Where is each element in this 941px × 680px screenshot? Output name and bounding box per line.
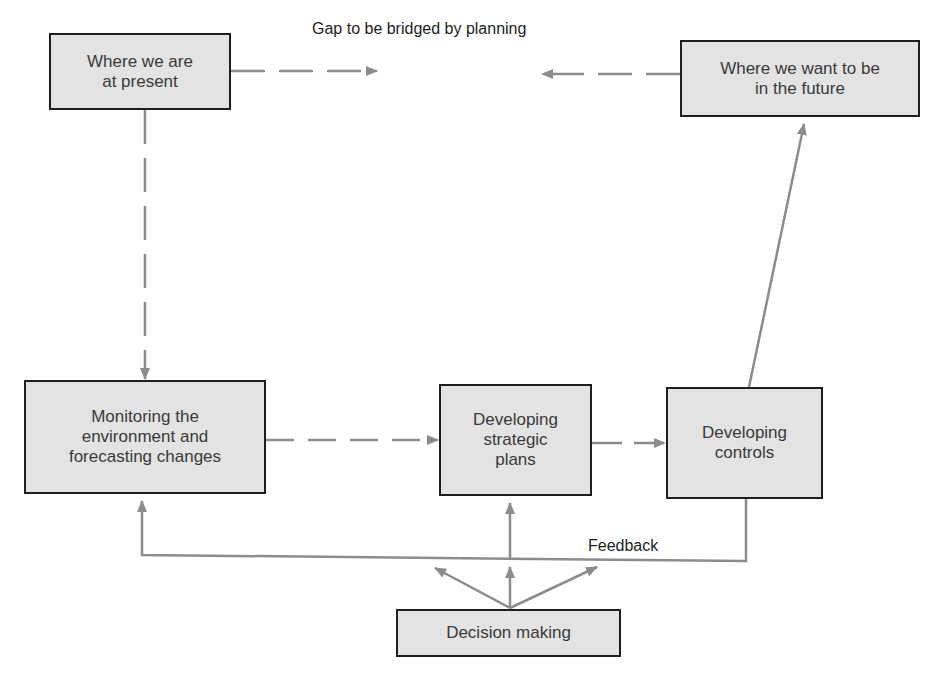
node-monitoring-environment: Monitoring the environment and forecasti…	[24, 380, 266, 494]
node-where-we-want-to-be: Where we want to be in the future	[680, 40, 920, 117]
feedback-label: Feedback	[588, 537, 658, 555]
arrow-decision-right	[510, 567, 597, 608]
node-developing-strategic-plans: Developing strategic plans	[439, 384, 592, 496]
arrow-decision-left	[435, 568, 510, 608]
gap-label: Gap to be bridged by planning	[312, 20, 526, 38]
node-where-we-are-at-present: Where we are at present	[49, 33, 231, 110]
arrow-controls-to-future	[749, 124, 804, 387]
node-decision-making: Decision making	[396, 609, 621, 657]
node-developing-controls: Developing controls	[666, 387, 823, 499]
